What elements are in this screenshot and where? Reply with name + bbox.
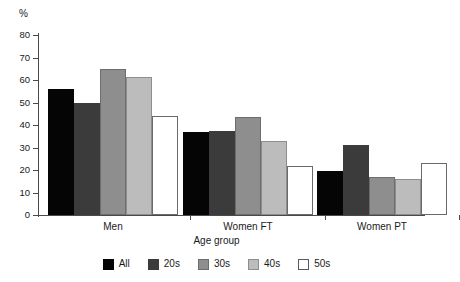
bar [421, 163, 447, 215]
bar [369, 177, 395, 215]
bar [183, 132, 209, 215]
y-axis-tick-label: 30 [19, 142, 30, 153]
bar-group [48, 35, 178, 215]
bar [287, 166, 313, 216]
legend-item[interactable]: All [103, 258, 130, 270]
y-axis-tick-label: 80 [19, 29, 30, 40]
bar [48, 89, 74, 215]
bar [317, 171, 343, 215]
bar [261, 141, 287, 215]
x-axis-group-tick [325, 215, 326, 220]
legend-label: All [119, 258, 130, 270]
bar [100, 69, 126, 215]
x-axis-group-tick [190, 215, 191, 220]
x-axis-group-label: Women FT [183, 221, 313, 233]
legend-swatch [103, 259, 114, 270]
legend-label: 40s [264, 258, 280, 270]
legend-swatch [148, 259, 159, 270]
legend-label: 20s [164, 258, 180, 270]
y-axis-unit-label: % [19, 8, 28, 19]
x-axis-group-label: Men [48, 221, 178, 233]
plot-area [38, 35, 424, 215]
bar-group [183, 35, 313, 215]
y-axis-tick-label: 10 [19, 187, 30, 198]
legend-item[interactable]: 50s [298, 258, 330, 270]
bar [126, 77, 152, 215]
x-axis-title: Age group [0, 235, 433, 247]
chart-legend: All20s30s40s50s [0, 258, 433, 270]
y-axis-tick-label: 50 [19, 97, 30, 108]
y-axis-tick-label: 40 [19, 119, 30, 130]
bar [235, 117, 261, 215]
bar [74, 103, 100, 216]
bar [152, 116, 178, 215]
bar [395, 179, 421, 215]
y-axis-tick-label: 70 [19, 52, 30, 63]
legend-item[interactable]: 30s [198, 258, 230, 270]
legend-swatch [248, 259, 259, 270]
y-axis-tick-label: 60 [19, 74, 30, 85]
y-axis-tick-label: 20 [19, 164, 30, 175]
legend-label: 30s [214, 258, 230, 270]
x-axis-line [33, 215, 425, 216]
legend-item[interactable]: 40s [248, 258, 280, 270]
y-axis-tick-label: 0 [25, 209, 30, 220]
y-axis-tick-mark [33, 215, 38, 216]
legend-item[interactable]: 20s [148, 258, 180, 270]
bar [343, 145, 369, 215]
bar-group [317, 35, 447, 215]
legend-label: 50s [314, 258, 330, 270]
legend-swatch [198, 259, 209, 270]
legend-swatch [298, 259, 309, 270]
bar [209, 131, 235, 215]
x-axis-group-label: Women PT [317, 221, 447, 233]
